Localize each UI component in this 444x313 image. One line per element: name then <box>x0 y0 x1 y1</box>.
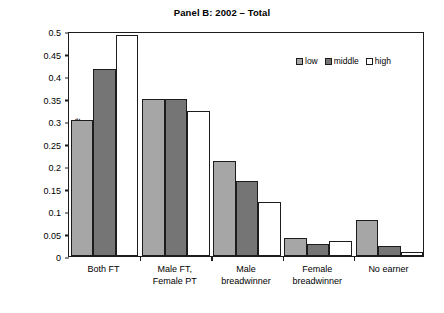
y-tick-mark <box>65 235 69 236</box>
y-tick-label: 0.15 <box>43 186 65 195</box>
x-tick-label: Both FT <box>68 264 139 276</box>
x-tick-label: Male breadwinner <box>210 264 281 287</box>
y-tick-mark <box>65 167 69 168</box>
y-tick-mark <box>65 77 69 78</box>
y-tick: 0.25 <box>43 141 69 150</box>
x-tick-mark <box>283 256 284 261</box>
y-tick-mark <box>65 145 69 146</box>
x-tick-label: Female breadwinner <box>282 264 353 287</box>
legend-swatch-middle <box>325 58 332 65</box>
bar-high <box>258 202 281 256</box>
bar-low <box>284 238 307 256</box>
legend-label: low <box>305 56 318 66</box>
x-tick-mark <box>140 256 141 261</box>
y-tick: 0.4 <box>48 74 69 83</box>
x-tick-label: Male FT, Female PT <box>139 264 210 287</box>
bar-middle <box>93 69 116 256</box>
y-tick: 0.5 <box>48 29 69 38</box>
legend-item-middle: middle <box>325 56 359 66</box>
legend-item-low: low <box>296 56 318 66</box>
y-tick-label: 0.1 <box>48 209 65 218</box>
bar-high <box>116 35 139 256</box>
y-tick-mark <box>65 100 69 101</box>
bar-middle <box>307 244 330 256</box>
y-tick-mark <box>65 122 69 123</box>
y-tick-mark <box>65 32 69 33</box>
y-tick-label: 0.3 <box>48 119 65 128</box>
y-tick: 0.35 <box>43 96 69 105</box>
y-tick-label: 0.25 <box>43 141 65 150</box>
y-tick: 0.3 <box>48 119 69 128</box>
bar-low <box>142 99 165 257</box>
bar-low <box>356 220 379 256</box>
y-tick: 0.15 <box>43 186 69 195</box>
y-tick-label: 0.4 <box>48 74 65 83</box>
y-tick: 0.1 <box>48 209 69 218</box>
chart-title: Panel B: 2002 – Total <box>0 7 444 18</box>
bar-middle <box>236 181 259 256</box>
bar-middle <box>165 99 188 256</box>
bar-high <box>401 252 424 256</box>
x-tick-label: No earner <box>353 264 424 276</box>
legend-swatch-high <box>366 58 373 65</box>
bar-middle <box>378 246 401 256</box>
bar-high <box>187 111 210 256</box>
y-tick-label: 0 <box>56 254 65 263</box>
y-tick-mark <box>65 55 69 56</box>
x-tick-mark <box>211 256 212 261</box>
bar-low <box>71 120 94 256</box>
legend-swatch-low <box>296 58 303 65</box>
y-tick: 0 <box>56 254 69 263</box>
legend-item-high: high <box>366 56 391 66</box>
y-tick-label: 0.5 <box>48 29 65 38</box>
y-tick: 0.05 <box>43 231 69 240</box>
y-tick-label: 0.05 <box>43 231 65 240</box>
chart-legend: lowmiddlehigh <box>296 56 391 66</box>
bar-chart: Panel B: 2002 – Total Share 00.050.10.15… <box>0 0 444 313</box>
x-tick-mark <box>354 256 355 261</box>
bar-high <box>329 241 352 256</box>
y-tick: 0.2 <box>48 164 69 173</box>
y-tick-mark <box>65 257 69 258</box>
y-tick-label: 0.45 <box>43 51 65 60</box>
y-tick: 0.45 <box>43 51 69 60</box>
y-tick-label: 0.35 <box>43 96 65 105</box>
bar-low <box>213 161 236 256</box>
y-tick-label: 0.2 <box>48 164 65 173</box>
legend-label: middle <box>334 56 359 66</box>
y-tick-mark <box>65 190 69 191</box>
y-tick-mark <box>65 212 69 213</box>
legend-label: high <box>375 56 391 66</box>
